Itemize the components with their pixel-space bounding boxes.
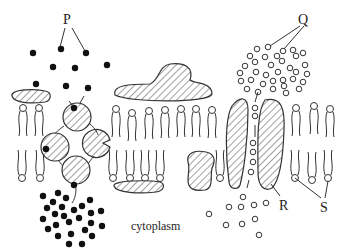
channel-protein-left — [226, 99, 248, 189]
p-molecules-inside — [40, 190, 105, 247]
q-molecules-outside — [237, 44, 310, 96]
q-molecules-inside — [206, 194, 269, 238]
label-s: S — [320, 200, 328, 215]
carrier-bottom — [62, 156, 90, 184]
label-cytoplasm: cytoplasm — [131, 219, 181, 233]
membrane-diagram: P Q R S cytoplasm — [0, 0, 346, 252]
carrier-right — [82, 130, 110, 158]
label-r: R — [279, 198, 289, 213]
protein-left-peripheral — [12, 90, 50, 103]
protein-integral-small — [188, 151, 214, 190]
protein-bottom-peripheral — [114, 181, 164, 193]
label-p: P — [63, 12, 71, 27]
protein-top-peripheral — [115, 64, 212, 101]
q-molecules-channel — [248, 105, 258, 175]
label-q: Q — [298, 12, 308, 27]
channel-protein-right — [258, 99, 284, 189]
